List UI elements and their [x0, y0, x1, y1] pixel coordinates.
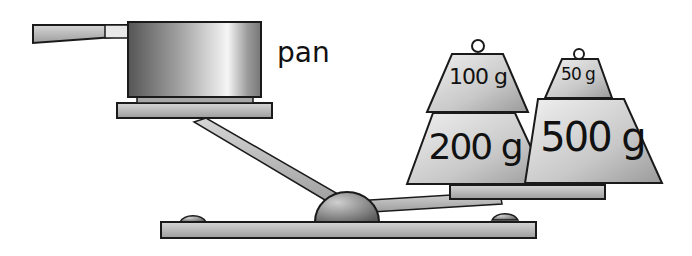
weight-label-200g: 200 g — [420, 126, 530, 167]
pan-icon — [33, 22, 261, 103]
weight-label-100g: 100 g — [440, 64, 516, 89]
left-platform — [117, 103, 272, 118]
right-platform — [450, 185, 605, 199]
right-foot — [492, 214, 518, 220]
pan-label: pan — [277, 36, 330, 69]
weight-label-500g: 500 g — [530, 114, 655, 160]
weight-label-50g: 50 g — [550, 64, 606, 84]
left-arm — [194, 118, 345, 206]
